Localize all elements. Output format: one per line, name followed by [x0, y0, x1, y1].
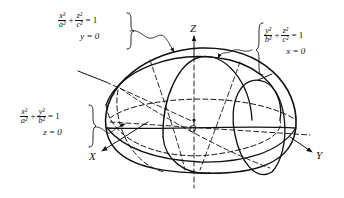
xz-constraint: y = 0 [58, 32, 99, 41]
origin-label: O [189, 123, 196, 134]
yz-term1: y² b² [264, 27, 272, 44]
xy-ellipse-front-lower [107, 128, 296, 162]
xy-ellipse-back [110, 99, 296, 120]
x-axis-outer-left [78, 71, 106, 82]
brace-yz [256, 23, 263, 75]
xy-constraint: z = 0 [20, 128, 62, 137]
yz-ellipse-inner [163, 56, 252, 137]
ellipsoid-outline [106, 48, 297, 173]
x-axis-hidden [106, 82, 194, 122]
origin-point [192, 118, 195, 121]
xy-term1: x² a² [20, 108, 28, 125]
xz-term2: z² c² [75, 12, 83, 29]
equation-xy: x² a² + y² b² = 1 z = 0 [20, 108, 62, 137]
equation-yz: y² b² + z² c² = 1 x = 0 [264, 27, 305, 56]
xz-term1: x² a² [58, 12, 66, 29]
x-axis-label: X [89, 150, 96, 162]
yz-ellipse-inner-lower [163, 137, 210, 173]
equation-xz: x² a² + z² c² = 1 y = 0 [58, 12, 99, 41]
yz-constraint: x = 0 [264, 47, 305, 56]
xz-ellipse-front [106, 57, 281, 120]
y-axis-label: Y [316, 149, 322, 161]
z-axis-label: Z [190, 22, 196, 34]
yz-term2: z² c² [281, 27, 289, 44]
xy-term2: y² b² [37, 108, 45, 125]
brace-xy [89, 105, 96, 147]
leader-xz [130, 31, 174, 52]
